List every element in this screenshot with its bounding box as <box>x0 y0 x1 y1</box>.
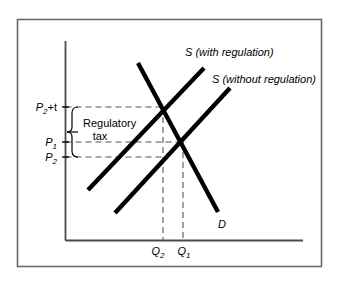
price-label-p2: P2 <box>45 151 57 166</box>
supply-with-regulation-curve <box>88 68 204 190</box>
p1-sub: 1 <box>53 142 57 151</box>
supply-without-regulation-curve <box>115 88 230 213</box>
quantity-label-q2: Q2 <box>151 245 165 260</box>
q1-sub: 1 <box>186 251 190 260</box>
demand-curve <box>138 63 218 212</box>
supply-without-regulation-label: S (without regulation) <box>212 73 316 85</box>
economics-diagram: P2+t P1 P2 Q2 Q1 Regulatory tax S (with … <box>0 0 339 282</box>
quantity-label-q1: Q1 <box>177 245 190 260</box>
supply-with-regulation-label: S (with regulation) <box>185 46 274 58</box>
p2t-suffix: +t <box>48 101 57 113</box>
q2-sub: 2 <box>159 251 165 260</box>
price-label-p1: P1 <box>45 136 57 151</box>
price-label-p2t: P2+t <box>36 101 57 116</box>
p2-sub: 2 <box>52 157 58 166</box>
demand-label: D <box>218 218 226 230</box>
figure-frame <box>18 20 322 267</box>
regulatory-tax-label-line1: Regulatory <box>83 117 137 129</box>
regulatory-tax-label-line2: tax <box>93 130 108 142</box>
